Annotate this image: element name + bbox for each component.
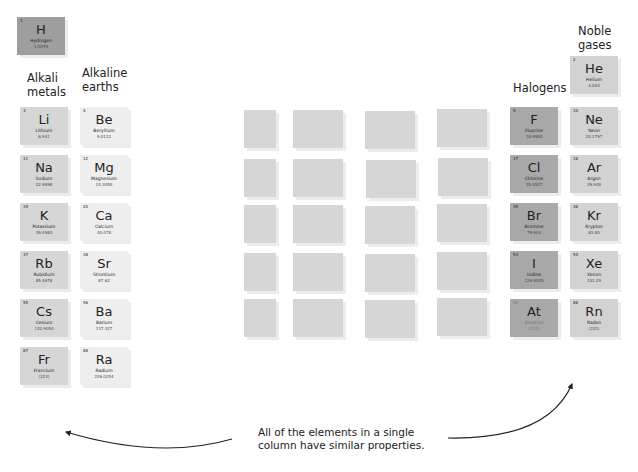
- caption: All of the elements in a single column h…: [258, 426, 425, 452]
- arrows: [0, 0, 638, 472]
- caption-line: All of the elements in a single: [258, 426, 425, 439]
- arrow-left: [66, 432, 232, 448]
- arrow-right: [448, 384, 572, 438]
- caption-line: column have similar properties.: [258, 439, 425, 452]
